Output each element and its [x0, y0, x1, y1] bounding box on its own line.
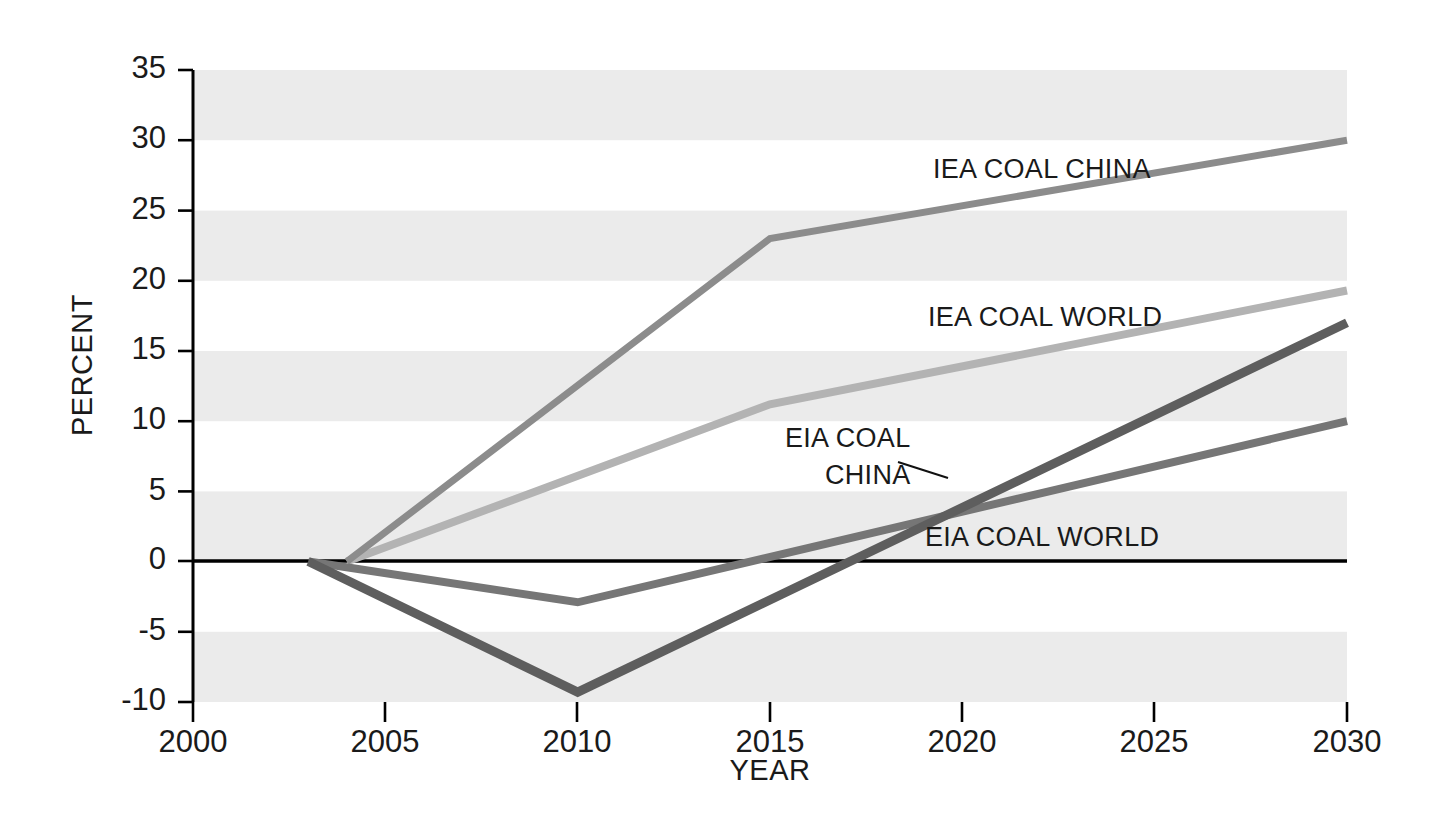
line-chart: 35 30 25 20 15 10 5 0 -5 -10 2000 2005 2…	[0, 0, 1437, 839]
series-label-eia-coal-china-line2: CHINA	[825, 460, 911, 490]
series-label-iea-coal-china: IEA COAL CHINA	[933, 154, 1151, 184]
x-tick-label: 2010	[543, 724, 612, 759]
band-20-25	[193, 211, 1347, 281]
x-tick-label: 2000	[159, 724, 228, 759]
y-tick-label: 20	[132, 261, 166, 296]
y-tick-label: 15	[132, 331, 166, 366]
y-axis-title: PERCENT	[66, 294, 98, 436]
y-tick-label: 5	[149, 472, 166, 507]
y-tick-labels: 35 30 25 20 15 10 5 0 -5 -10	[121, 50, 166, 717]
x-tick-label: 2005	[351, 724, 420, 759]
chart-container: 35 30 25 20 15 10 5 0 -5 -10 2000 2005 2…	[0, 0, 1437, 839]
y-tick-label: 10	[132, 401, 166, 436]
band-minus10-minus5	[193, 632, 1347, 702]
y-tick-label: 25	[132, 191, 166, 226]
y-tick-label: 35	[132, 50, 166, 85]
series-label-iea-coal-world: IEA COAL WORLD	[928, 302, 1162, 332]
x-tick-label: 2020	[928, 724, 997, 759]
x-tick-label: 2030	[1313, 724, 1382, 759]
y-tick-label: 30	[132, 120, 166, 155]
y-tick-label: -10	[121, 682, 166, 717]
y-tick-label: -5	[138, 612, 166, 647]
x-tick-marks	[193, 702, 1347, 722]
series-label-eia-coal-china-line1: EIA COAL	[785, 423, 910, 453]
x-axis-title: YEAR	[730, 754, 811, 786]
y-tick-label: 0	[149, 541, 166, 576]
y-tick-marks	[178, 70, 193, 702]
band-30-35	[193, 70, 1347, 140]
series-label-eia-coal-world: EIA COAL WORLD	[925, 522, 1159, 552]
x-tick-label: 2025	[1120, 724, 1189, 759]
